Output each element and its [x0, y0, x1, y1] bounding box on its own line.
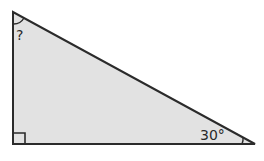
known-angle-label: 30°: [200, 127, 225, 143]
triangle-diagram: ? 30°: [0, 0, 264, 161]
right-triangle: [13, 12, 255, 144]
unknown-angle-label: ?: [16, 27, 23, 43]
